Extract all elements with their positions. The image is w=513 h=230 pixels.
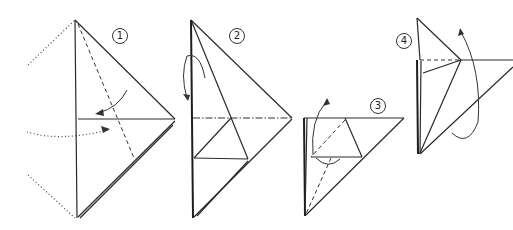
step-3-figure (304, 98, 404, 216)
step-3-number: 3 (370, 98, 386, 114)
step-2-number: 2 (229, 28, 245, 44)
step-1-figure (27, 20, 175, 218)
step-2-figure (183, 20, 292, 218)
step-4-figure (417, 18, 513, 154)
origami-diagram (0, 0, 513, 230)
step-4-number: 4 (396, 33, 412, 49)
step-1-number: 1 (112, 28, 128, 44)
